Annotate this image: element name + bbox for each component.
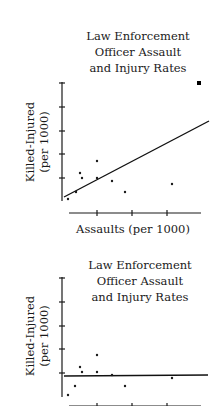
data-point <box>67 394 69 396</box>
ylabel-line-1: Killed-Injured <box>23 101 37 182</box>
title-line-3: and Injury Rates <box>90 61 187 75</box>
data-point <box>171 377 173 379</box>
data-point <box>79 172 81 174</box>
data-point <box>124 385 126 387</box>
chart-title: Law Enforcement Officer Assault and Inju… <box>88 258 192 304</box>
data-point <box>171 183 173 185</box>
y-axis-label: Killed-Injured (per 1000) <box>23 101 51 182</box>
y-axis-label: Killed-Injured (per 1000) <box>23 295 51 376</box>
title-line-1: Law Enforcement <box>88 258 192 272</box>
y-axis <box>59 277 65 397</box>
bottom-chart: Law Enforcement Officer Assault and Inju… <box>23 258 208 406</box>
data-point <box>111 374 113 376</box>
title-line-2: Officer Assault <box>97 274 184 288</box>
data-point <box>74 385 76 387</box>
regression-line <box>64 121 209 197</box>
x-axis <box>69 210 201 216</box>
data-point <box>96 160 98 162</box>
ylabel-line-1: Killed-Injured <box>23 295 37 376</box>
data-points <box>67 160 173 200</box>
regression-line <box>64 375 208 376</box>
data-point <box>75 191 77 193</box>
title-line-1: Law Enforcement <box>86 29 190 43</box>
title-line-3: and Injury Rates <box>92 290 189 304</box>
data-point <box>81 177 83 179</box>
figure: Law Enforcement Officer Assault and Inju… <box>0 0 219 406</box>
data-point <box>124 191 126 193</box>
data-point <box>79 366 81 368</box>
data-point <box>96 354 98 356</box>
x-axis-label: Assaults (per 1000) <box>75 222 190 236</box>
chart-title: Law Enforcement Officer Assault and Inju… <box>86 29 190 75</box>
data-point <box>111 180 113 182</box>
ylabel-line-2: (per 1000) <box>37 111 51 173</box>
title-line-2: Officer Assault <box>95 45 182 59</box>
data-point <box>81 371 83 373</box>
data-point <box>96 371 98 373</box>
outlier-square-marker <box>197 81 201 85</box>
data-point <box>96 177 98 179</box>
data-point <box>67 198 69 200</box>
ylabel-line-2: (per 1000) <box>37 305 51 367</box>
top-chart: Law Enforcement Officer Assault and Inju… <box>23 29 209 236</box>
y-axis <box>59 82 65 201</box>
